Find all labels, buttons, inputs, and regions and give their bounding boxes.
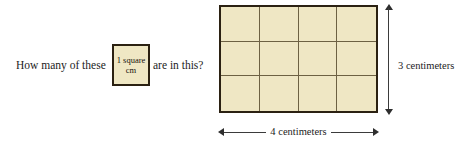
width-dimension-arrow: 4 centimeters	[218, 127, 379, 137]
grid-cell	[299, 7, 338, 42]
dimension-line	[388, 8, 389, 111]
unit-square-swatch: 1 square cm	[112, 44, 150, 86]
arrow-down-icon	[385, 109, 393, 115]
unit-square-label-line-2: cm	[126, 65, 136, 75]
grid-cell	[337, 42, 376, 77]
grid-cell	[260, 42, 299, 77]
grid-cell	[299, 76, 338, 111]
arrow-right-icon	[373, 128, 379, 136]
grid-cell	[337, 76, 376, 111]
area-model-figure: How many of these 1 square cm are in thi…	[0, 0, 461, 148]
grid-cell	[221, 7, 260, 42]
grid-cell	[299, 42, 338, 77]
dimension-line	[331, 132, 373, 133]
area-grid	[219, 5, 378, 113]
question-text-part-1: How many of these	[16, 60, 106, 72]
grid-cell	[221, 76, 260, 111]
grid-cell	[260, 76, 299, 111]
grid-cell	[221, 42, 260, 77]
grid-cell	[260, 7, 299, 42]
question-text-part-2: are in this?	[153, 60, 203, 72]
grid-cell	[337, 7, 376, 42]
height-dimension-arrow	[384, 4, 394, 115]
unit-square-label-line-1: 1 square	[117, 55, 146, 65]
height-dimension-label: 3 centimeters	[398, 60, 454, 71]
